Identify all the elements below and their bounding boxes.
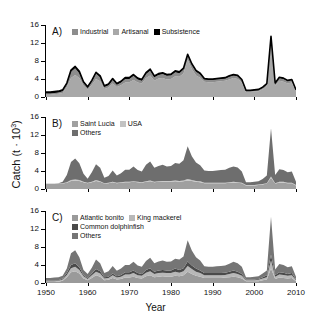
x-tick-label: 2010 <box>281 288 311 297</box>
y-tick-label: 8 <box>3 57 39 65</box>
y-tick-label: 12 <box>3 225 39 233</box>
legend-swatch-icon <box>72 29 78 35</box>
x-tick-mark <box>254 283 255 286</box>
legend-row: Others <box>72 231 186 240</box>
legend-swatch-icon <box>129 215 135 221</box>
x-tick-label: 1960 <box>73 288 103 297</box>
x-tick-mark <box>296 97 297 100</box>
legend-item: King mackerel <box>129 213 181 222</box>
y-tick-mark <box>41 61 45 62</box>
legend-row: Atlantic bonitoKing mackerel <box>72 213 186 222</box>
panel-a-tag: A) <box>52 26 62 37</box>
y-tick-mark <box>41 97 45 98</box>
legend-row: Others <box>72 128 147 137</box>
x-tick-mark <box>213 283 214 286</box>
panel-b-y-tick-labels: 0481216 <box>0 106 39 202</box>
y-tick-mark <box>41 153 45 154</box>
y-tick-label: 16 <box>3 207 39 215</box>
legend-label: King mackerel <box>137 214 181 221</box>
panel-a-y-tick-labels: 0481216 <box>0 14 39 110</box>
y-tick-label: 0 <box>3 93 39 101</box>
legend-swatch-icon <box>154 29 160 35</box>
y-tick-label: 4 <box>3 75 39 83</box>
x-tick-mark <box>46 283 47 286</box>
y-tick-label: 8 <box>3 243 39 251</box>
x-tick-mark <box>129 97 130 100</box>
y-tick-mark <box>41 171 45 172</box>
legend-item: Saint Lucia <box>72 119 115 128</box>
legend-item: Industrial <box>72 27 108 36</box>
y-tick-mark <box>41 117 45 118</box>
legend-swatch-icon <box>120 121 126 127</box>
panel-b-legend: Saint LuciaUSAOthers <box>72 119 147 137</box>
panel-c: 0481216 C) Atlantic bonitoKing mackerelC… <box>0 200 311 300</box>
x-tick-mark <box>171 189 172 192</box>
y-tick-mark <box>41 135 45 136</box>
x-tick-mark <box>46 97 47 100</box>
legend-item: Others <box>72 231 101 240</box>
legend-item: Common dolphinfish <box>72 222 144 231</box>
y-tick-mark <box>41 283 45 284</box>
y-tick-mark <box>41 79 45 80</box>
y-tick-mark <box>41 189 45 190</box>
panel-c-y-tick-labels: 0481216 <box>0 200 39 296</box>
legend-item: Others <box>72 128 101 137</box>
y-tick-mark <box>41 247 45 248</box>
y-tick-label: 16 <box>3 21 39 29</box>
legend-swatch-icon <box>72 233 78 239</box>
legend-item: Artisanal <box>113 27 148 36</box>
panel-c-tag: C) <box>52 212 63 223</box>
x-tick-mark <box>213 97 214 100</box>
legend-row: Common dolphinfish <box>72 222 186 231</box>
y-tick-mark <box>41 43 45 44</box>
legend-swatch-icon <box>72 224 78 230</box>
x-tick-mark <box>129 283 130 286</box>
y-tick-label: 12 <box>3 131 39 139</box>
y-tick-label: 4 <box>3 167 39 175</box>
x-tick-label: 2000 <box>239 288 269 297</box>
panel-c-legend: Atlantic bonitoKing mackerelCommon dolph… <box>72 213 186 240</box>
x-tick-mark <box>129 189 130 192</box>
y-tick-label: 0 <box>3 185 39 193</box>
x-tick-mark <box>88 97 89 100</box>
x-tick-mark <box>296 189 297 192</box>
y-tick-mark <box>41 265 45 266</box>
legend-swatch-icon <box>113 29 119 35</box>
legend-label: USA <box>128 120 142 127</box>
y-tick-mark <box>41 25 45 26</box>
y-tick-label: 0 <box>3 279 39 287</box>
x-tick-label: 1950 <box>31 288 61 297</box>
legend-label: Subsistence <box>162 28 200 35</box>
x-axis-tick-labels: 1950196019701980199020002010 <box>0 288 311 300</box>
x-tick-mark <box>88 283 89 286</box>
y-tick-label: 12 <box>3 39 39 47</box>
legend-label: Atlantic bonito <box>80 214 124 221</box>
x-tick-label: 1970 <box>114 288 144 297</box>
legend-row: IndustrialArtisanalSubsistence <box>72 27 205 36</box>
x-tick-label: 1990 <box>198 288 228 297</box>
legend-label: Saint Lucia <box>80 120 115 127</box>
x-tick-mark <box>254 97 255 100</box>
legend-label: Common dolphinfish <box>80 223 144 230</box>
panel-a-legend: IndustrialArtisanalSubsistence <box>72 27 205 36</box>
legend-swatch-icon <box>72 215 78 221</box>
x-tick-mark <box>88 189 89 192</box>
y-tick-mark <box>41 211 45 212</box>
legend-swatch-icon <box>72 130 78 136</box>
x-tick-mark <box>171 283 172 286</box>
panel-b-tag: B) <box>52 118 62 129</box>
x-tick-mark <box>254 189 255 192</box>
legend-label: Artisanal <box>121 28 148 35</box>
x-tick-mark <box>46 189 47 192</box>
legend-label: Others <box>80 129 101 136</box>
legend-row: Saint LuciaUSA <box>72 119 147 128</box>
legend-item: Subsistence <box>154 27 200 36</box>
legend-swatch-icon <box>72 121 78 127</box>
x-tick-mark <box>213 189 214 192</box>
x-tick-label: 1980 <box>156 288 186 297</box>
figure-root: Catch (t · 103) 0481216 A) IndustrialArt… <box>0 0 311 329</box>
legend-item: USA <box>120 119 142 128</box>
y-tick-mark <box>41 229 45 230</box>
x-tick-mark <box>296 283 297 286</box>
y-tick-label: 4 <box>3 261 39 269</box>
